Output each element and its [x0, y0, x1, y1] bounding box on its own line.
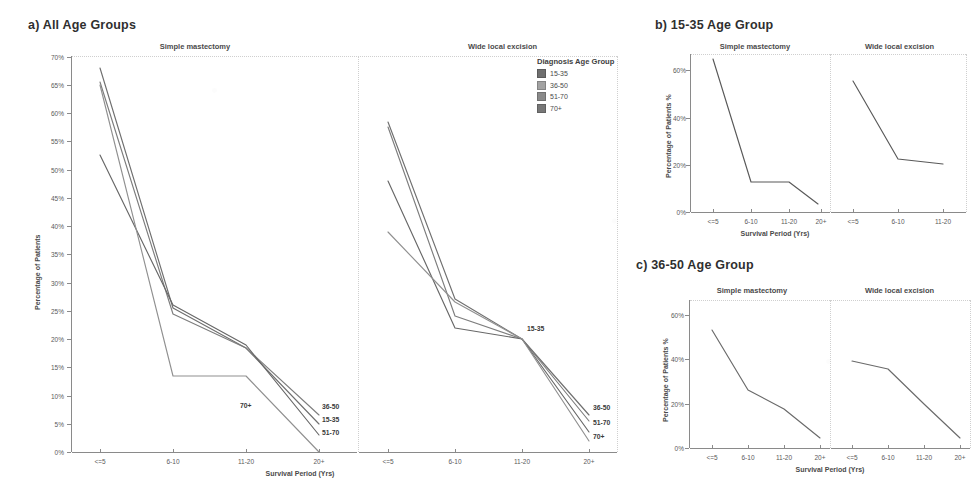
- legend-swatch-icon: [537, 81, 546, 90]
- panel-c-right-x-tickmark: [888, 445, 889, 449]
- series-line-36-50: [388, 127, 589, 421]
- panel-a-right-xtick: <=5: [382, 458, 393, 465]
- panel-c-right-x-tickmark: [852, 445, 853, 449]
- legend: Diagnosis Age Group 15-35 36-50 51-70 70…: [537, 57, 614, 115]
- panel-a-right-x-tickmark: [589, 449, 590, 453]
- panel-a-right-x-tickmark: [522, 449, 523, 453]
- panel-b-right-x-tickmark: [853, 209, 854, 213]
- panel-c-right-xtick: <=5: [846, 454, 857, 461]
- legend-title: Diagnosis Age Group: [537, 57, 614, 66]
- panel-a-x-axis-title: Survival Period (Yrs): [266, 470, 335, 477]
- panel-b-right-plot: [655, 0, 975, 250]
- panel-a-right-label-51-70: 51-70: [593, 419, 610, 426]
- legend-swatch-icon: [537, 104, 546, 113]
- panel-c-right-x-tickmark: [960, 445, 961, 449]
- panel-a-right-x-tickmark: [388, 449, 389, 453]
- legend-item-label: 15-35: [550, 70, 568, 77]
- panel-a-right-xtick: 6-10: [448, 458, 461, 465]
- series-line-15-35: [853, 81, 943, 164]
- panel-b-right-xtick: 11-20: [935, 218, 951, 225]
- panel-b-right-x-tickmark: [943, 209, 944, 213]
- panel-a-right-x-tickmark: [455, 449, 456, 453]
- panel-b: b) 15-35 Age Group Simple mastectomy Wid…: [655, 0, 975, 250]
- series-line-36-50: [852, 361, 960, 438]
- series-line-70plus: [388, 232, 589, 441]
- panel-c-right-x-tickmark: [924, 445, 925, 449]
- panel-c-right-xtick: 6-10: [881, 454, 894, 461]
- legend-item-15-35[interactable]: 15-35: [537, 69, 614, 78]
- panel-a-right-label-36-50: 36-50: [593, 404, 610, 411]
- panel-c: c) 36-50 Age Group Simple mastectomy Wid…: [632, 252, 975, 502]
- panel-b-x-axis-title: Survival Period (Yrs): [741, 230, 810, 237]
- panel-c-x-axis-title: Survival Period (Yrs): [796, 466, 865, 473]
- legend-item-label: 51-70: [550, 93, 568, 100]
- panel-c-right-plot: [632, 252, 975, 502]
- panel-a-right-xtick: 20+: [583, 458, 594, 465]
- legend-item-label: 70+: [550, 105, 562, 112]
- legend-swatch-icon: [537, 92, 546, 101]
- panel-a: a) All Age Groups Simple mastectomy Wide…: [0, 0, 660, 502]
- panel-b-right-x-tickmark: [898, 209, 899, 213]
- legend-item-36-50[interactable]: 36-50: [537, 81, 614, 90]
- legend-item-label: 36-50: [550, 82, 568, 89]
- panel-a-right-xtick: 11-20: [514, 458, 530, 465]
- legend-item-51-70[interactable]: 51-70: [537, 92, 614, 101]
- panel-b-right-xtick: <=5: [847, 218, 858, 225]
- panel-c-right-xtick: 11-20: [916, 454, 932, 461]
- panel-b-right-xtick: 6-10: [891, 218, 904, 225]
- series-line-15-35: [388, 122, 589, 415]
- panel-a-right-label-70plus: 70+: [593, 433, 605, 440]
- panel-a-right-label-15-35: 15-35: [527, 325, 544, 332]
- legend-swatch-icon: [537, 69, 546, 78]
- legend-item-70plus[interactable]: 70+: [537, 104, 614, 113]
- panel-c-right-xtick: 20+: [954, 454, 965, 461]
